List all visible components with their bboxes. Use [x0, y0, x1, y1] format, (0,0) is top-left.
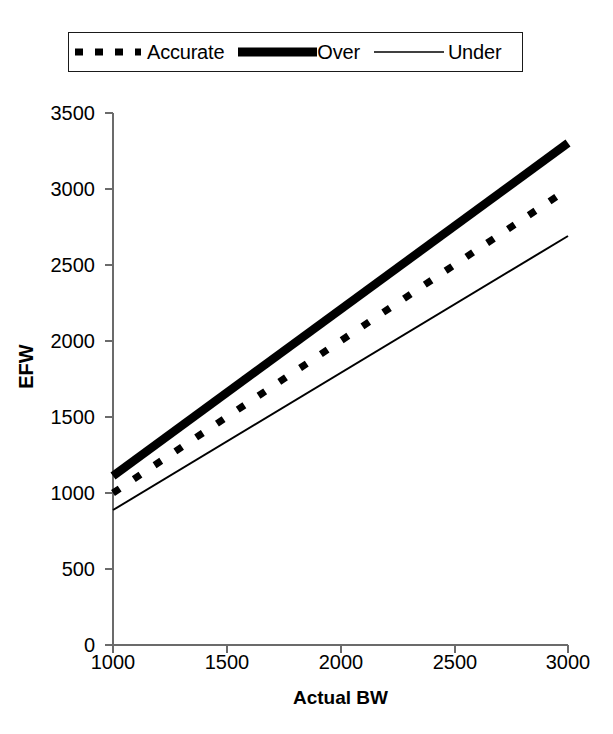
y-tick-label-500: 500	[25, 559, 95, 579]
x-axis-title: Actual BW	[113, 687, 568, 709]
x-tick-label-1000: 1000	[68, 652, 158, 672]
x-tick-label-2000: 2000	[296, 652, 386, 672]
y-axis-title: EFW	[15, 337, 38, 397]
x-tick-label-2500: 2500	[410, 652, 500, 672]
x-tick-label-1500: 1500	[182, 652, 272, 672]
y-tick-label-1500: 1500	[25, 407, 95, 427]
x-tick-label-3000: 3000	[523, 652, 613, 672]
y-tick-label-1000: 1000	[25, 483, 95, 503]
series-line-accurate	[113, 189, 568, 493]
y-tick-label-3000: 3000	[25, 179, 95, 199]
y-tick-label-3500: 3500	[25, 103, 95, 123]
y-tick-label-2500: 2500	[25, 255, 95, 275]
y-axis-ticks	[105, 113, 113, 645]
series-line-under	[113, 236, 568, 510]
chart-figure: Accurate Over Under	[0, 0, 613, 734]
series-line-over	[113, 143, 568, 476]
